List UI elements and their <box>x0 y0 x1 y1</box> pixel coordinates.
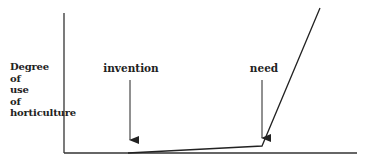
y-axis-label: Degree of use of horticulture <box>10 61 76 119</box>
adoption-curve <box>128 8 320 153</box>
y-axis-label-line: Degree <box>10 61 76 73</box>
y-axis-label-line: of <box>10 73 76 85</box>
invention-label: invention <box>103 62 159 74</box>
y-axis-label-line: horticulture <box>10 107 76 119</box>
need-label: need <box>250 62 278 74</box>
y-axis-label-line: use <box>10 84 76 96</box>
diagram: Degree of use of horticulture invention … <box>0 0 369 161</box>
y-axis-label-line: of <box>10 96 76 108</box>
